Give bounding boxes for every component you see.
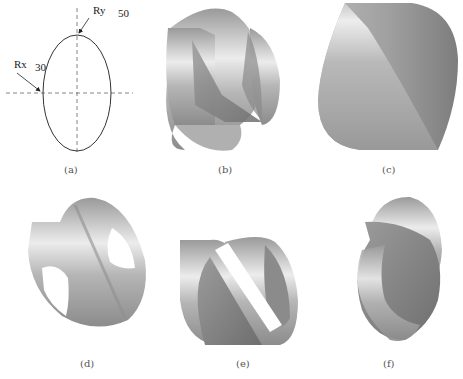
rx-value: 30 <box>35 61 46 73</box>
panel-e-render <box>180 237 298 345</box>
panel-f-render <box>357 197 442 341</box>
ry-value: 50 <box>118 7 129 19</box>
rx-arrow <box>17 73 40 91</box>
panel-label-b: (b) <box>218 164 232 175</box>
ry-arrow <box>79 18 89 33</box>
panel-label-e: (e) <box>236 358 250 369</box>
panel-label-f: (f) <box>383 358 395 369</box>
ry-label: Ry <box>93 4 105 16</box>
panel-a-ellipse-sketch <box>6 8 133 152</box>
panel-d-render <box>28 198 146 327</box>
panel-c-render <box>318 3 458 150</box>
panel-label-d: (d) <box>80 358 94 369</box>
rx-label: Rx <box>14 58 27 70</box>
panel-b-render <box>166 9 280 151</box>
panel-label-c: (c) <box>382 164 395 175</box>
panel-label-a: (a) <box>64 164 78 175</box>
